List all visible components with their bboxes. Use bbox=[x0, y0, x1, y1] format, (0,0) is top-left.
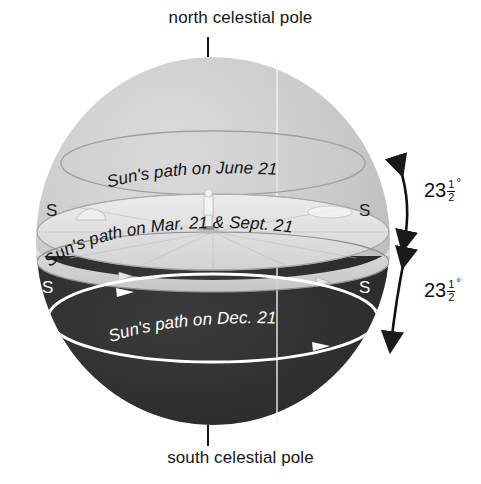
angle-arc-lower-line bbox=[391, 260, 404, 344]
tilt-angle-upper-integer: 23 bbox=[424, 180, 446, 200]
tilt-angle-lower: 23 1 2 ° bbox=[424, 278, 461, 302]
tilt-angle-lower-fraction: 1 2 bbox=[447, 279, 455, 303]
tilt-angle-upper-degree-symbol: ° bbox=[456, 177, 460, 188]
tilt-angle-upper-numerator: 1 bbox=[447, 179, 455, 191]
tilt-angle-lower-degree-symbol: ° bbox=[456, 277, 460, 288]
tilt-angle-upper-fraction: 1 2 bbox=[447, 179, 455, 203]
tilt-angle-upper: 23 1 2 ° bbox=[424, 178, 461, 202]
cardinal-s-upper-right: S bbox=[359, 201, 370, 220]
cardinal-s-upper-left: S bbox=[46, 201, 57, 220]
sphere-illustration: Sun's path on June 21 Sun's path on Mar.… bbox=[0, 0, 481, 484]
tilt-angle-lower-numerator: 1 bbox=[447, 279, 455, 291]
north-celestial-pole-label: north celestial pole bbox=[0, 8, 481, 28]
cardinal-s-lower-left: S bbox=[42, 278, 53, 297]
cardinal-s-lower-right: S bbox=[359, 278, 370, 297]
tilt-angle-lower-denominator: 2 bbox=[447, 291, 455, 304]
scenery-cloud-right bbox=[308, 206, 352, 218]
angle-arc-lower bbox=[391, 260, 404, 344]
tilt-angle-upper-denominator: 2 bbox=[447, 191, 455, 204]
observer-head bbox=[205, 189, 213, 197]
angle-arc-upper bbox=[400, 168, 407, 243]
angle-arc-upper-line bbox=[400, 168, 407, 243]
south-celestial-pole-label: south celestial pole bbox=[0, 448, 481, 468]
observer-torso bbox=[204, 196, 213, 216]
celestial-sphere-diagram: Sun's path on June 21 Sun's path on Mar.… bbox=[0, 0, 481, 484]
tilt-angle-lower-integer: 23 bbox=[424, 280, 446, 300]
